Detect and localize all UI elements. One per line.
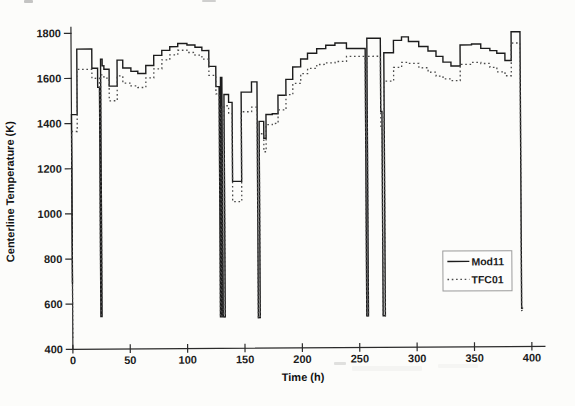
temperature-history-chart: 0501001502002503003504004006008001000120… xyxy=(0,0,575,406)
y-tick-label-1000: 1000 xyxy=(38,208,63,220)
y-tick-label-1600: 1600 xyxy=(37,72,62,84)
plot-area: 0501001502002503003504004006008001000120… xyxy=(36,24,545,366)
x-tick-label-350: 350 xyxy=(465,352,483,364)
x-tick-label-150: 150 xyxy=(236,353,254,365)
legend-label-mod11: Mod11 xyxy=(471,255,504,267)
x-tick-label-250: 250 xyxy=(351,353,369,365)
scanned-figure-page: 0501001502002503003504004006008001000120… xyxy=(0,0,575,406)
x-tick-label-400: 400 xyxy=(523,351,541,363)
y-tick-label-800: 800 xyxy=(44,253,62,265)
y-tick-label-400: 400 xyxy=(44,343,62,355)
y-tick-label-1400: 1400 xyxy=(37,117,62,129)
series-line-tfc01 xyxy=(71,43,523,338)
chart-svg: 0501001502002503003504004006008001000120… xyxy=(0,0,575,406)
y-tick-label-1200: 1200 xyxy=(37,163,62,175)
x-axis-title: Time (h) xyxy=(282,371,325,383)
y-axis-title: Centerline Temperature (K) xyxy=(3,121,16,262)
y-tick-label-600: 600 xyxy=(44,298,62,310)
x-tick-label-300: 300 xyxy=(408,352,426,364)
legend: Mod11 TFC01 xyxy=(443,251,512,291)
x-tick-label-200: 200 xyxy=(293,353,311,365)
x-tick-label-0: 0 xyxy=(70,354,76,366)
y-tick-label-1800: 1800 xyxy=(36,27,61,39)
x-tick-label-100: 100 xyxy=(178,354,196,366)
legend-label-tfc01: TFC01 xyxy=(471,273,503,285)
x-tick-label-50: 50 xyxy=(124,354,136,366)
